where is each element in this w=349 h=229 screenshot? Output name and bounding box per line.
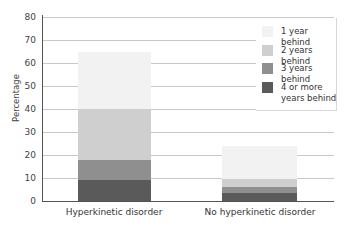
bar-segment: [222, 179, 297, 187]
bar-segment: [78, 180, 151, 201]
bar-segment: [222, 146, 297, 179]
legend-swatch: [262, 26, 273, 37]
chart: 01020304050607080 Percentage Hyperkineti…: [0, 0, 349, 229]
y-tick-label: 70: [6, 35, 36, 45]
legend-item-4-or-more-years: 4 or more years behind: [262, 82, 339, 104]
y-tick-label: 10: [6, 173, 36, 183]
bar-segment: [78, 160, 151, 181]
y-tick-label: 80: [6, 12, 36, 22]
y-tick-label: 20: [6, 150, 36, 160]
x-axis: [42, 201, 334, 202]
legend-label: 4 or more years behind: [281, 82, 339, 104]
bar-segment: [222, 193, 297, 201]
legend-swatch: [262, 45, 273, 56]
y-tick-label: 60: [6, 58, 36, 68]
bar-segment: [78, 52, 151, 110]
x-label-hyperkinetic: Hyperkinetic disorder: [39, 207, 189, 217]
legend: 1 year behind 2 years behind 3 years beh…: [256, 18, 337, 111]
x-label-no-hyperkinetic: No hyperkinetic disorder: [185, 207, 335, 217]
y-axis-title: Percentage: [11, 68, 21, 128]
legend-swatch: [262, 82, 273, 93]
bar-segment: [222, 187, 297, 193]
legend-swatch: [262, 63, 273, 74]
bar-segment: [78, 109, 151, 160]
y-tick-label: 0: [6, 196, 36, 206]
y-tick-label: 30: [6, 127, 36, 137]
y-axis: [42, 15, 43, 202]
